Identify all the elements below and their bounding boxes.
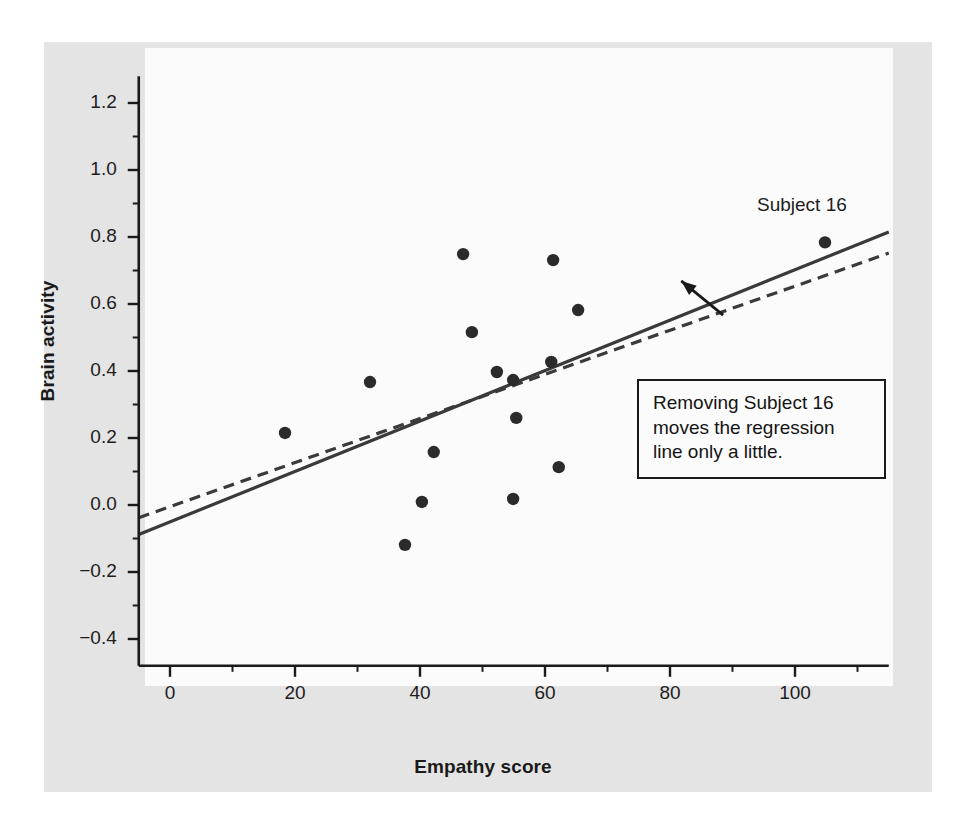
scatter-point <box>545 356 557 368</box>
y-tick-label: 0.0 <box>61 493 117 515</box>
y-tick-label: 1.0 <box>61 158 117 180</box>
scatter-point <box>819 236 831 248</box>
x-tick-label: 40 <box>388 682 452 704</box>
scatter-point <box>399 539 411 551</box>
scatter-point <box>364 376 376 388</box>
callout-line-3: line only a little. <box>653 440 872 465</box>
scatter-point <box>466 326 478 338</box>
scatter-point <box>547 254 559 266</box>
scatter-point <box>507 374 519 386</box>
scatter-point <box>416 496 428 508</box>
x-axis-title: Empathy score <box>0 756 966 778</box>
scatter-point <box>510 412 522 424</box>
x-tick-label: 0 <box>138 682 202 704</box>
y-axis-title: Brain activity <box>37 221 59 461</box>
y-tick-label: −0.2 <box>61 560 117 582</box>
y-tick-label: 1.2 <box>61 91 117 113</box>
axis-lines <box>139 76 889 666</box>
scatter-point <box>553 461 565 473</box>
subject-16-label: Subject 16 <box>757 194 847 216</box>
callout-line-1: Removing Subject 16 <box>653 391 872 416</box>
scatter-point <box>507 493 519 505</box>
callout-arrow <box>681 281 723 315</box>
y-tick-label: 0.4 <box>61 359 117 381</box>
figure-container: Brain activity Empathy score −0.4−0.20.0… <box>0 0 966 833</box>
x-tick-label: 80 <box>638 682 702 704</box>
x-tick-label: 100 <box>763 682 827 704</box>
y-tick-label: 0.8 <box>61 225 117 247</box>
y-tick-label: 0.6 <box>61 292 117 314</box>
x-tick-label: 20 <box>263 682 327 704</box>
x-tick-label: 60 <box>513 682 577 704</box>
scatter-point <box>457 248 469 260</box>
callout-box: Removing Subject 16 moves the regression… <box>637 379 886 479</box>
y-tick-label: −0.4 <box>61 627 117 649</box>
scatter-point <box>572 304 584 316</box>
scatter-point <box>279 427 291 439</box>
y-tick-label: 0.2 <box>61 426 117 448</box>
scatter-point <box>491 366 503 378</box>
scatter-point <box>428 446 440 458</box>
callout-line-2: moves the regression <box>653 416 872 441</box>
